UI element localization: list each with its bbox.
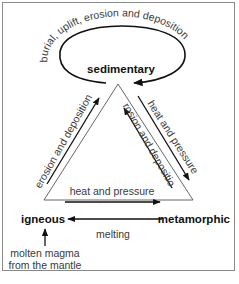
arrow-igneous-to-sedimentary (47, 98, 99, 184)
label-magma-line1: molten magma (10, 247, 80, 259)
label-sedimentary-to-metamorphic: heat and pressure (145, 98, 201, 176)
node-sedimentary: sedimentary (87, 63, 155, 75)
node-metamorphic: metamorphic (158, 213, 231, 225)
node-igneous: igneous (21, 213, 65, 225)
label-metamorphic-to-igneous: melting (96, 228, 130, 240)
label-igneous-to-sedimentary: erosion and deposition (32, 92, 94, 190)
label-igneous-to-metamorphic: heat and pressure (70, 185, 155, 197)
rock-cycle-diagram: burial, uplift, erosion and deposition s… (0, 0, 239, 284)
label-magma-line2: from the mantle (9, 259, 82, 271)
